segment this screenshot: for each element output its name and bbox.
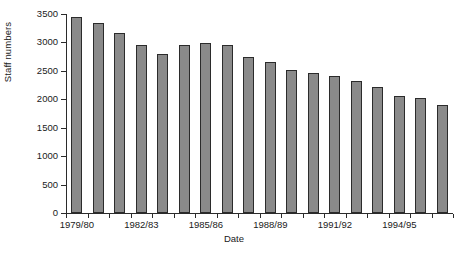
x-tick [195, 214, 196, 218]
x-tick-label: 1979/80 [47, 219, 107, 230]
x-tick-label: 1985/86 [176, 219, 236, 230]
bar [71, 17, 82, 213]
x-axis-title: Date [0, 233, 468, 244]
x-tick [346, 214, 347, 218]
x-tick [238, 214, 239, 218]
bar [351, 81, 362, 213]
x-tick-label: 1991/92 [305, 219, 365, 230]
x-tick-label: 1994/95 [369, 219, 429, 230]
bar-chart: Staff numbers 05001000150020002500300035… [0, 0, 468, 257]
y-tick-label: 3000 [0, 36, 58, 47]
bar [286, 70, 297, 213]
y-tick-label: 2500 [0, 65, 58, 76]
bar [265, 62, 276, 213]
bar [157, 54, 168, 213]
x-tick [367, 214, 368, 218]
x-tick [432, 214, 433, 218]
bar [437, 105, 448, 213]
x-tick [389, 214, 390, 218]
x-tick [152, 214, 153, 218]
bar [329, 76, 340, 213]
x-tick [88, 214, 89, 218]
bar [415, 98, 426, 213]
x-tick [260, 214, 261, 218]
bar [222, 45, 233, 213]
y-tick-label: 2000 [0, 93, 58, 104]
x-tick [174, 214, 175, 218]
x-tick-label: 1982/83 [111, 219, 171, 230]
y-axis-title-wrap: Staff numbers [0, 60, 18, 180]
y-tick-label: 500 [0, 179, 58, 190]
bar [136, 45, 147, 213]
bar [114, 33, 125, 213]
x-tick [410, 214, 411, 218]
x-tick [109, 214, 110, 218]
y-tick-label: 3500 [0, 8, 58, 19]
bar [308, 73, 319, 213]
x-tick [324, 214, 325, 218]
x-tick [66, 214, 67, 218]
x-tick [303, 214, 304, 218]
bar [93, 23, 104, 214]
x-tick [131, 214, 132, 218]
bar [200, 43, 211, 213]
bars-layer [66, 14, 453, 213]
bar [243, 57, 254, 213]
y-tick-label: 0 [0, 207, 58, 218]
bar [372, 87, 383, 213]
y-tick-label: 1500 [0, 122, 58, 133]
bar [394, 96, 405, 213]
y-tick-label: 1000 [0, 150, 58, 161]
x-tick [217, 214, 218, 218]
x-tick [453, 214, 454, 218]
x-tick-label: 1988/89 [240, 219, 300, 230]
x-tick [281, 214, 282, 218]
bar [179, 45, 190, 213]
